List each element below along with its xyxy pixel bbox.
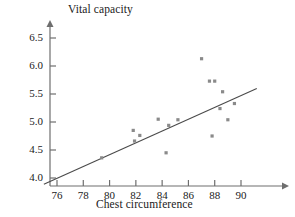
data-point [100,156,103,159]
data-point [157,118,160,121]
data-point [133,139,136,142]
data-point [221,90,224,93]
scatter-plot-figure: Vital capacity Chest circumference 4.04.… [0,0,295,217]
x-tick-label: 84 [151,189,173,201]
axes-group [50,26,283,186]
data-point [132,129,135,132]
data-point [167,124,170,127]
x-tick-label: 80 [99,189,121,201]
x-tick-label: 76 [46,189,68,201]
y-tick-label: 6.5 [17,31,43,43]
x-tick-label: 90 [230,189,252,201]
y-tick-label: 4.5 [17,143,43,155]
data-points-group [100,57,236,159]
data-point [218,107,221,110]
data-point [233,102,236,105]
data-point [210,134,213,137]
plot-canvas [0,0,295,217]
trend-line [44,88,257,184]
data-point [208,80,211,83]
data-point [226,118,229,121]
y-tick-label: 6.0 [17,59,43,71]
regression-line [44,88,257,184]
x-tick-label: 88 [204,189,226,201]
data-point [200,57,203,60]
tick-marks-group [50,38,241,186]
x-tick-label: 82 [125,189,147,201]
y-tick-label: 5.0 [17,115,43,127]
x-tick-label: 86 [177,189,199,201]
data-point [164,151,167,154]
data-point [138,134,141,137]
y-tick-label: 4.0 [17,171,43,183]
y-tick-label: 5.5 [17,87,43,99]
y-axis-title: Vital capacity [68,3,133,15]
data-point [176,118,179,121]
data-point [213,80,216,83]
x-tick-label: 78 [72,189,94,201]
